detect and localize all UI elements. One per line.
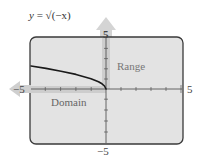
y-max-label: 5 [103,28,109,40]
range-label: Range [117,60,145,72]
x-min-label: −5 [13,83,25,95]
y-min-label: −5 [97,145,109,157]
x-max-label: 5 [187,83,193,95]
chart-graph [0,0,201,165]
domain-label: Domain [51,96,86,108]
domain-band [31,86,106,93]
